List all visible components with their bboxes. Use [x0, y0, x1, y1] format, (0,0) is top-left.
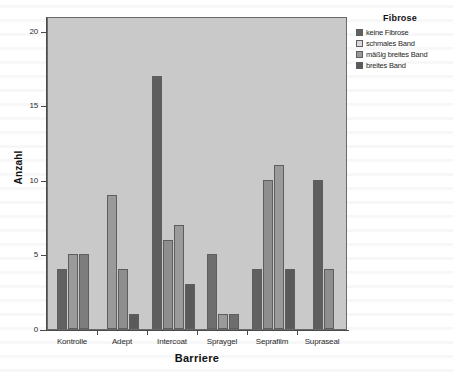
legend-items: keine Fibroseschmales Bandmäßig breites … [356, 27, 452, 70]
x-axis-line [40, 330, 349, 331]
bar [229, 314, 239, 329]
bar [313, 180, 323, 329]
y-axis-tick-label: 15 [8, 101, 38, 110]
x-axis-tick [197, 331, 198, 335]
legend-item: keine Fibrose [356, 27, 452, 37]
bar-chart: 05101520 Anzahl KontrolleAdeptIntercoatS… [0, 0, 453, 372]
bar [218, 314, 228, 329]
x-axis-tick [97, 331, 98, 335]
bar [263, 180, 273, 329]
bar [174, 225, 184, 329]
y-axis-tick [41, 255, 47, 256]
legend-item: schmales Band [356, 38, 452, 48]
legend-item-label: breites Band [366, 61, 406, 70]
legend-swatch-icon [356, 29, 363, 36]
bar [68, 254, 78, 329]
legend-swatch-icon [356, 51, 363, 58]
legend: Fibrose keine Fibroseschmales Bandmäßig … [356, 13, 452, 71]
x-axis-tick-label: Supraseal [285, 337, 359, 346]
bar [57, 269, 67, 329]
y-axis-title: Anzahl [13, 138, 24, 198]
legend-item-label: schmales Band [366, 39, 415, 48]
legend-item: breites Band [356, 60, 452, 70]
y-axis-tick [41, 32, 47, 33]
bar [79, 254, 89, 329]
y-axis-tick-label: 5 [8, 250, 38, 259]
x-axis-tick [147, 331, 148, 335]
bar [274, 165, 284, 329]
bar [118, 269, 128, 329]
bar [252, 269, 262, 329]
bar [152, 76, 162, 329]
bar [129, 314, 139, 329]
x-axis-tick [297, 331, 298, 335]
y-axis-tick-label: 20 [8, 27, 38, 36]
y-axis-tick-label: 0 [8, 325, 38, 334]
bar [163, 240, 173, 329]
bar [285, 269, 295, 329]
x-axis-tick [247, 331, 248, 335]
y-axis-tick [41, 181, 47, 182]
bar [207, 254, 217, 329]
bars-layer [48, 18, 346, 329]
bar [324, 269, 334, 329]
legend-swatch-icon [356, 62, 363, 69]
bar [107, 195, 117, 329]
x-axis-title: Barriere [47, 352, 347, 364]
legend-title: Fibrose [356, 13, 444, 23]
legend-item-label: mäßig breites Band [366, 50, 427, 59]
legend-swatch-icon [356, 40, 363, 47]
y-axis-line [46, 17, 47, 331]
bar [185, 284, 195, 329]
plot-area [47, 17, 347, 330]
legend-item-label: keine Fibrose [366, 28, 408, 37]
y-axis-tick [41, 106, 47, 107]
legend-item: mäßig breites Band [356, 49, 452, 59]
